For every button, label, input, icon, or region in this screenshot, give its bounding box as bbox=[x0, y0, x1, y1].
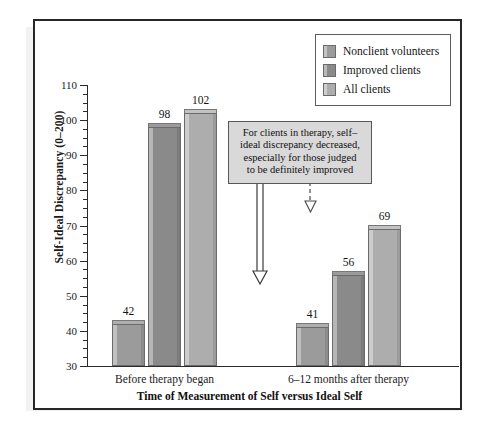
y-tick-major bbox=[80, 226, 88, 227]
x-group-label: Before therapy began bbox=[85, 373, 245, 386]
y-tick-label: 40 bbox=[51, 326, 77, 337]
bar bbox=[112, 324, 145, 366]
legend-swatch-highlight bbox=[324, 84, 327, 95]
y-tick-minor bbox=[83, 252, 88, 253]
legend-swatch bbox=[323, 45, 336, 58]
arrow-to-improved-clients-icon bbox=[253, 175, 267, 284]
legend-swatch bbox=[323, 64, 336, 77]
bar-value-label: 69 bbox=[360, 210, 409, 222]
bar-shadow bbox=[141, 325, 144, 365]
bar bbox=[148, 127, 181, 366]
bar-shadow bbox=[177, 128, 180, 365]
y-tick-minor bbox=[83, 348, 88, 349]
bar bbox=[184, 113, 217, 366]
annotation-callout: For clients in therapy, self– ideal disc… bbox=[228, 121, 372, 184]
legend-label: Nonclient volunteers bbox=[343, 45, 439, 57]
y-tick-minor bbox=[83, 243, 88, 244]
bar-value-label: 56 bbox=[324, 256, 373, 268]
legend-item: Improved clients bbox=[323, 61, 443, 79]
legend-swatch-highlight bbox=[324, 46, 327, 57]
bar-shadow bbox=[325, 328, 328, 365]
y-tick-minor bbox=[83, 322, 88, 323]
x-group-label: 6–12 months after therapy bbox=[269, 373, 429, 386]
legend-swatch bbox=[323, 83, 336, 96]
y-tick-minor bbox=[83, 208, 88, 209]
y-tick-label: 30 bbox=[51, 361, 77, 372]
y-tick-minor bbox=[83, 146, 88, 147]
bar-value-label: 98 bbox=[140, 108, 189, 120]
y-tick-major bbox=[80, 331, 88, 332]
y-tick-label: 50 bbox=[51, 291, 77, 302]
y-tick-minor bbox=[83, 287, 88, 288]
y-tick-minor bbox=[83, 199, 88, 200]
y-tick-minor bbox=[83, 103, 88, 104]
bar-highlight bbox=[297, 328, 301, 365]
bar-value-label: 41 bbox=[288, 308, 337, 320]
y-tick-major bbox=[80, 155, 88, 156]
chart-legend: Nonclient volunteersImproved clientsAll … bbox=[315, 34, 451, 106]
y-tick-minor bbox=[83, 173, 88, 174]
y-tick-minor bbox=[83, 129, 88, 130]
y-tick-major bbox=[80, 120, 88, 121]
y-tick-minor bbox=[83, 305, 88, 306]
y-tick-minor bbox=[83, 340, 88, 341]
bar-shadow bbox=[361, 276, 364, 365]
figure-frame: 30405060708090100110 Self-Ideal Discrepa… bbox=[33, 19, 462, 410]
bar bbox=[296, 327, 329, 366]
y-tick-minor bbox=[83, 138, 88, 139]
y-tick-minor bbox=[83, 234, 88, 235]
annotation-text: For clients in therapy, self– ideal disc… bbox=[235, 127, 365, 177]
plot-area: 30405060708090100110 Self-Ideal Discrepa… bbox=[35, 21, 464, 412]
y-tick-major bbox=[80, 261, 88, 262]
bar-highlight bbox=[149, 128, 153, 365]
bar-highlight bbox=[185, 114, 189, 365]
y-tick-minor bbox=[83, 217, 88, 218]
legend-label: All clients bbox=[343, 83, 391, 95]
bar-shadow bbox=[213, 114, 216, 365]
legend-label: Improved clients bbox=[343, 64, 421, 76]
bar-value-label: 102 bbox=[176, 94, 225, 106]
y-tick-major bbox=[80, 190, 88, 191]
y-tick-minor bbox=[83, 313, 88, 314]
y-tick-minor bbox=[83, 278, 88, 279]
y-tick-minor bbox=[83, 357, 88, 358]
y-tick-minor bbox=[83, 94, 88, 95]
bar-value-label: 42 bbox=[104, 305, 153, 317]
y-tick-major bbox=[80, 366, 88, 367]
bar-highlight bbox=[333, 276, 337, 365]
y-tick-major bbox=[80, 296, 88, 297]
y-tick-major bbox=[80, 85, 88, 86]
bar-shadow bbox=[397, 230, 400, 365]
legend-item: Nonclient volunteers bbox=[323, 42, 443, 60]
bar-highlight bbox=[369, 230, 373, 365]
bar bbox=[368, 229, 401, 366]
y-tick-minor bbox=[83, 111, 88, 112]
x-axis-title: Time of Measurement of Self versus Ideal… bbox=[35, 390, 464, 402]
legend-swatch-highlight bbox=[324, 65, 327, 76]
y-tick-minor bbox=[83, 164, 88, 165]
bar bbox=[332, 275, 365, 366]
bar-highlight bbox=[113, 325, 117, 365]
y-tick-minor bbox=[83, 182, 88, 183]
y-tick-minor bbox=[83, 269, 88, 270]
legend-item: All clients bbox=[323, 80, 443, 98]
x-axis-line bbox=[87, 366, 459, 367]
y-axis-title: Self-Ideal Discrepancy (0–200) bbox=[53, 87, 65, 287]
